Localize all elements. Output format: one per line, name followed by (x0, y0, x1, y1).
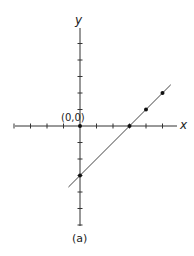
data-point (128, 124, 132, 128)
data-point (78, 174, 82, 178)
data-line (68, 85, 170, 187)
data-point (144, 108, 148, 112)
x-axis-label: x (180, 119, 187, 131)
y-axis-label: y (75, 14, 82, 26)
origin-label: (0,0) (61, 113, 85, 123)
figure-caption: (a) (72, 233, 87, 244)
line-series (68, 85, 170, 187)
data-point (78, 124, 82, 128)
axis-ticks (14, 44, 163, 226)
data-point (161, 91, 165, 95)
coordinate-plane (0, 0, 194, 256)
